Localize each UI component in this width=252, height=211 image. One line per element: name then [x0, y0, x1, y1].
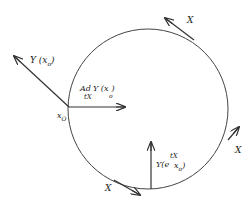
- x-tangent-arrow-right: [228, 127, 239, 140]
- svg-text:tX: tX: [170, 152, 179, 160]
- svg-text:xo): xo): [174, 161, 185, 172]
- label-y-x0: Y (xo): [30, 55, 55, 67]
- svg-text:Ad: Ad: [79, 84, 91, 93]
- label-x0: xO: [57, 111, 67, 122]
- svg-text:Y(e: Y(e: [156, 160, 169, 169]
- label-y-etx: Y(e tX xo): [156, 152, 185, 172]
- label-ad-tx: Ad tX Y (x) o: [79, 84, 115, 101]
- label-x-top: X: [186, 15, 194, 25]
- svg-text:Y (xo): Y (xo): [30, 55, 55, 67]
- flow-diagram: Y (xo) xO Ad tX Y (x) o Y(e tX xo) X X X: [0, 0, 252, 211]
- label-x-right: X: [234, 145, 242, 155]
- svg-text:xO: xO: [57, 111, 67, 122]
- svg-text:o: o: [109, 92, 113, 99]
- label-x-bottom: X: [104, 183, 112, 193]
- svg-text:tX: tX: [84, 93, 93, 101]
- x-tangent-arrow-bottom: [114, 180, 140, 195]
- orbit-circle: [68, 29, 228, 189]
